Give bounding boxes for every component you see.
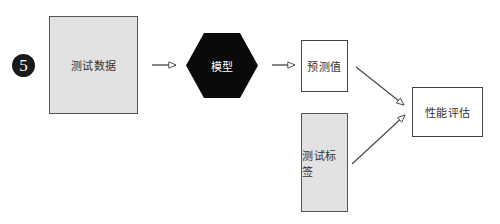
test-data-node: 测试数据 <box>49 16 138 114</box>
test-data-label: 测试数据 <box>71 57 117 73</box>
evaluation-node: 性能评估 <box>412 87 483 137</box>
arrow-label-to-eval <box>352 115 405 164</box>
evaluation-label: 性能评估 <box>425 104 471 120</box>
step-number-badge: 5 <box>12 54 35 77</box>
prediction-node: 预测值 <box>301 40 348 92</box>
prediction-label: 预测值 <box>307 58 342 74</box>
model-label: 模型 <box>211 58 233 74</box>
model-node: 模型 <box>186 33 258 98</box>
arrow-prediction-to-eval <box>356 67 404 105</box>
diagram-canvas: 5 测试数据 模型 预测值 测试标签 性能评估 <box>0 0 500 224</box>
test-label-label: 测试标签 <box>302 147 347 179</box>
test-label-node: 测试标签 <box>301 113 348 212</box>
